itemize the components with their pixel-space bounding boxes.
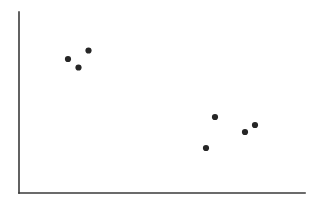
scatter-plot-figure bbox=[0, 0, 322, 203]
data-point bbox=[75, 64, 81, 70]
data-point bbox=[212, 114, 218, 120]
plot-canvas bbox=[0, 0, 322, 203]
figure-background bbox=[0, 0, 322, 203]
data-point bbox=[242, 129, 248, 135]
data-point bbox=[252, 122, 258, 128]
data-point bbox=[203, 145, 209, 151]
data-point bbox=[85, 47, 91, 53]
data-point bbox=[65, 56, 71, 62]
